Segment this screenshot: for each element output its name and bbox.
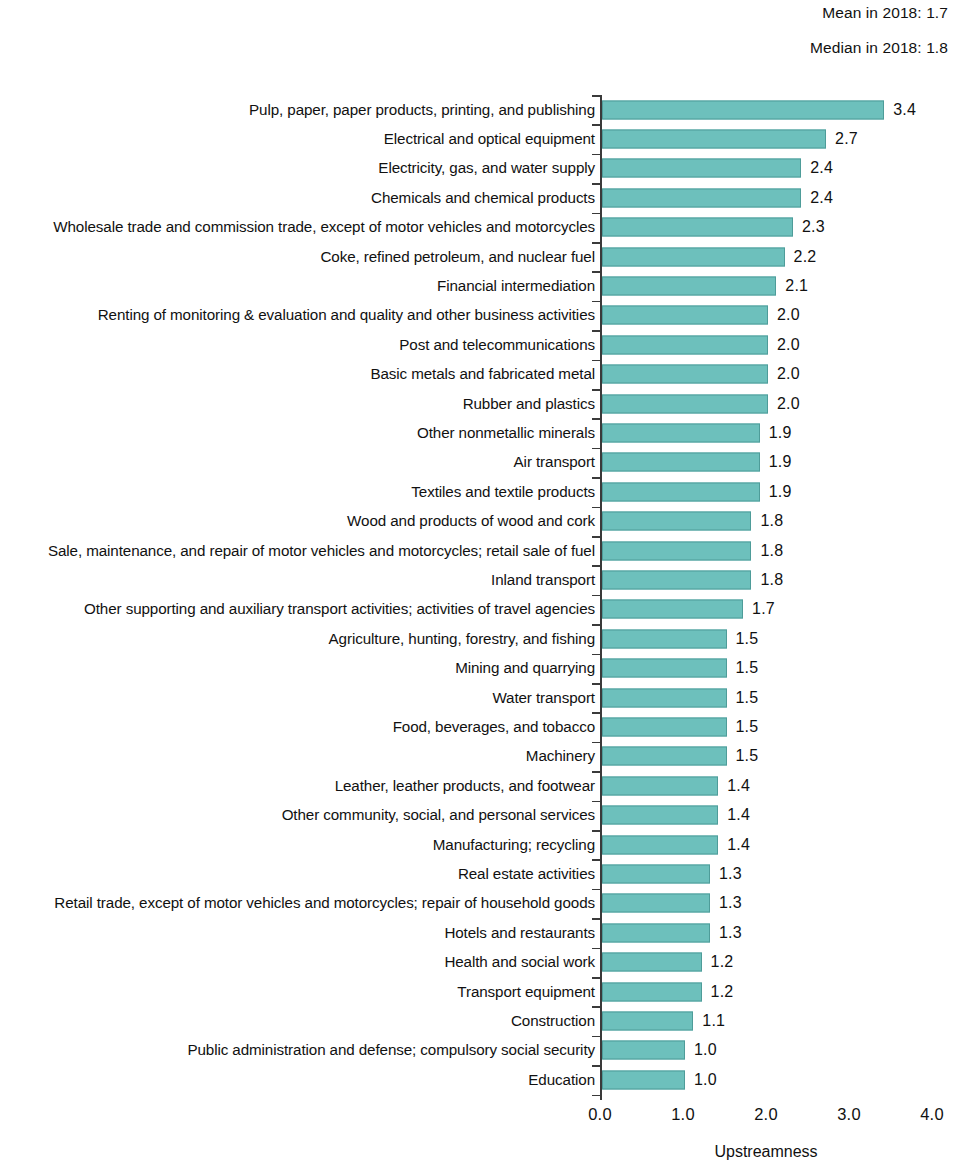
bar-value-label: 1.3 xyxy=(719,865,742,883)
bar-row: Wood and products of wood and cork1.8 xyxy=(0,507,955,536)
axis-tick-mark xyxy=(592,1036,601,1038)
bar xyxy=(602,688,727,707)
x-tick-label: 0.0 xyxy=(588,1105,612,1124)
axis-tick-mark xyxy=(592,183,601,185)
axis-tick-mark xyxy=(592,124,601,126)
bar-row: Food, beverages, and tobacco1.5 xyxy=(0,712,955,741)
bar-value-label: 2.0 xyxy=(777,306,800,324)
bar xyxy=(602,218,793,237)
bar-value-label: 1.9 xyxy=(769,483,792,501)
bar-value-label: 1.3 xyxy=(719,924,742,942)
bar-value-label: 1.5 xyxy=(736,747,759,765)
category-label: Water transport xyxy=(0,690,595,706)
bar xyxy=(602,1012,693,1031)
bar-value-label: 1.4 xyxy=(727,806,750,824)
category-label: Wholesale trade and commission trade, ex… xyxy=(0,219,595,235)
category-label: Machinery xyxy=(0,749,595,765)
category-label: Inland transport xyxy=(0,572,595,588)
bar-row: Public administration and defense; compu… xyxy=(0,1036,955,1065)
category-label: Mining and quarrying xyxy=(0,660,595,676)
bar-value-label: 1.1 xyxy=(702,1012,725,1030)
bar xyxy=(602,629,727,648)
bar-value-label: 1.8 xyxy=(760,542,783,560)
bar xyxy=(602,865,710,884)
category-label: Other supporting and auxiliary transport… xyxy=(0,602,595,618)
axis-tick-mark xyxy=(592,448,601,450)
category-label: Renting of monitoring & evaluation and q… xyxy=(0,308,595,324)
axis-tick-mark xyxy=(592,712,601,714)
category-label: Rubber and plastics xyxy=(0,396,595,412)
category-label: Electricity, gas, and water supply xyxy=(0,161,595,177)
bar-row: Manufacturing; recycling1.4 xyxy=(0,830,955,859)
bar-value-label: 2.0 xyxy=(777,336,800,354)
category-label: Health and social work xyxy=(0,954,595,970)
bar-value-label: 1.8 xyxy=(760,571,783,589)
bar-row: Machinery1.5 xyxy=(0,742,955,771)
category-label: Food, beverages, and tobacco xyxy=(0,719,595,735)
bar-value-label: 1.4 xyxy=(727,777,750,795)
bar-row: Agriculture, hunting, forestry, and fish… xyxy=(0,624,955,653)
bar xyxy=(602,306,768,325)
category-label: Financial intermediation xyxy=(0,278,595,294)
bar-value-label: 1.9 xyxy=(769,424,792,442)
x-tick-label: 3.0 xyxy=(837,1105,861,1124)
category-label: Electrical and optical equipment xyxy=(0,131,595,147)
category-label: Sale, maintenance, and repair of motor v… xyxy=(0,543,595,559)
axis-tick-mark xyxy=(592,771,601,773)
header-annotations: Mean in 2018: 1.7 Median in 2018: 1.8 xyxy=(0,0,948,74)
bar-value-label: 1.9 xyxy=(769,453,792,471)
bar-value-label: 2.4 xyxy=(810,159,833,177)
axis-tick-mark xyxy=(592,859,601,861)
bar-row: Retail trade, except of motor vehicles a… xyxy=(0,889,955,918)
bar xyxy=(602,600,743,619)
bar xyxy=(602,894,710,913)
bar xyxy=(602,835,718,854)
bar-row: Other community, social, and personal se… xyxy=(0,801,955,830)
bar xyxy=(602,718,727,737)
bar-row: Transport equipment1.2 xyxy=(0,977,955,1006)
bar xyxy=(602,1070,685,1089)
bar xyxy=(602,953,702,972)
axis-tick-mark xyxy=(592,154,601,156)
axis-tick-mark xyxy=(592,683,601,685)
x-axis-title: Upstreamness xyxy=(600,1143,932,1161)
category-label: Education xyxy=(0,1072,595,1088)
x-tick-label: 4.0 xyxy=(920,1105,944,1124)
bar xyxy=(602,335,768,354)
mean-annotation: Mean in 2018: 1.7 xyxy=(0,5,948,21)
axis-tick-mark xyxy=(592,1006,601,1008)
axis-tick-mark xyxy=(592,654,601,656)
bar-value-label: 1.3 xyxy=(719,894,742,912)
axis-tick-mark xyxy=(592,624,601,626)
bar xyxy=(602,512,751,531)
bar xyxy=(602,159,801,178)
bar-row: Other nonmetallic minerals1.9 xyxy=(0,418,955,447)
bar-value-label: 2.0 xyxy=(777,365,800,383)
axis-tick-mark xyxy=(592,301,601,303)
category-label: Leather, leather products, and footwear xyxy=(0,778,595,794)
bar-row: Post and telecommunications2.0 xyxy=(0,330,955,359)
category-label: Basic metals and fabricated metal xyxy=(0,366,595,382)
axis-tick-mark xyxy=(592,801,601,803)
bar-row: Textiles and textile products1.9 xyxy=(0,477,955,506)
bar xyxy=(602,659,727,678)
axis-tick-mark xyxy=(592,330,601,332)
bar xyxy=(602,747,727,766)
bar-row: Water transport1.5 xyxy=(0,683,955,712)
bar-value-label: 2.7 xyxy=(835,130,858,148)
bar-row: Sale, maintenance, and repair of motor v… xyxy=(0,536,955,565)
axis-tick-mark xyxy=(592,830,601,832)
axis-tick-mark xyxy=(592,360,601,362)
bar xyxy=(602,100,884,119)
category-label: Post and telecommunications xyxy=(0,337,595,353)
axis-tick-mark xyxy=(592,213,601,215)
x-axis: 0.01.02.03.04.0 Upstreamness xyxy=(0,1095,955,1162)
bar-value-label: 1.5 xyxy=(736,630,759,648)
bar-row: Basic metals and fabricated metal2.0 xyxy=(0,360,955,389)
bar xyxy=(602,1041,685,1060)
bar-value-label: 2.0 xyxy=(777,395,800,413)
bar xyxy=(602,482,760,501)
category-label: Pulp, paper, paper products, printing, a… xyxy=(0,102,595,118)
median-annotation: Median in 2018: 1.8 xyxy=(0,40,948,56)
category-label: Transport equipment xyxy=(0,984,595,1000)
